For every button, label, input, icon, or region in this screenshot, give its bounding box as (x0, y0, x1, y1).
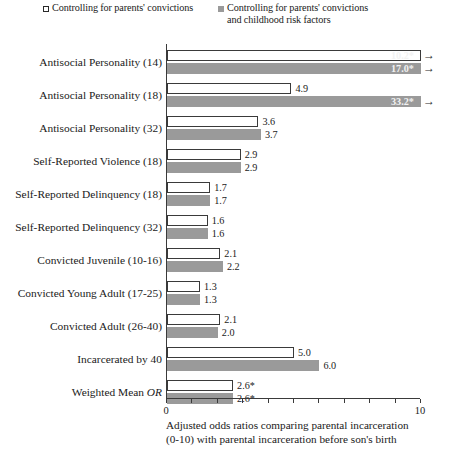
x-tick (242, 399, 243, 403)
bar-value-label: 4.9 (295, 82, 308, 95)
bar-value-label: 2.9 (245, 161, 258, 174)
open-square-icon (43, 6, 49, 12)
bar-filled[interactable] (167, 360, 319, 371)
bar-open[interactable] (167, 248, 220, 259)
bar-value-label: 2.0 (222, 326, 235, 339)
bar-value-label: 2.6* (237, 379, 255, 392)
bar-row-label: Self-Reported Delinquency (18) (0, 187, 162, 201)
bar-filled[interactable] (167, 129, 261, 140)
legend-entry-open: Controlling for parents' convictions (43, 2, 193, 14)
bar-row: Antisocial Personality (14)10.2*→17.0*→ (0, 48, 454, 81)
off-scale-arrow-icon: → (423, 95, 435, 108)
legend-label-1: Controlling for parents' convictions and… (227, 2, 368, 27)
bar-value-label: 5.0 (298, 346, 311, 359)
x-tick-label: 0 (163, 404, 168, 417)
x-tick (420, 399, 421, 403)
bar-value-label: 1.7 (214, 194, 227, 207)
bar-filled[interactable] (167, 228, 208, 239)
x-tick (166, 399, 167, 403)
bar-open[interactable] (167, 50, 421, 61)
bar-value-label: 2.1 (224, 247, 237, 260)
x-tick (395, 399, 396, 403)
bar-value-label: 33.2* (391, 95, 414, 108)
bar-value-label: 1.3 (204, 280, 217, 293)
bar-filled[interactable] (167, 162, 241, 173)
bar-row: Antisocial Personality (32)3.63.7 (0, 114, 454, 147)
bar-value-label: 1.3 (204, 293, 217, 306)
bar-value-label: 3.7 (265, 128, 278, 141)
bar-open[interactable] (167, 83, 291, 94)
bar-open[interactable] (167, 281, 200, 292)
chart-plot-area: Antisocial Personality (14)10.2*→17.0*→A… (0, 44, 454, 404)
bar-row-label: Antisocial Personality (14) (0, 55, 162, 69)
bar-open[interactable] (167, 347, 294, 358)
x-tick (268, 399, 269, 403)
bar-filled[interactable] (167, 96, 421, 107)
bar-value-label: 2.2 (227, 260, 240, 273)
bar-row-label: Self-Reported Violence (18) (0, 154, 162, 168)
bar-value-label: 2.1 (224, 313, 237, 326)
bar-filled[interactable] (167, 195, 210, 206)
x-tick (369, 399, 370, 403)
bar-row-label: Weighted Mean OR (0, 385, 162, 399)
value-axis: 010 (0, 398, 454, 418)
bar-row: Self-Reported Violence (18)2.92.9 (0, 147, 454, 180)
bar-open[interactable] (167, 215, 208, 226)
bar-open[interactable] (167, 380, 233, 391)
bar-row: Convicted Juvenile (10-16)2.12.2 (0, 246, 454, 279)
bar-open[interactable] (167, 116, 258, 127)
axis-caption: Adjusted odds ratios comparing parental … (166, 419, 454, 446)
bar-row-label: Convicted Adult (26-40) (0, 319, 162, 333)
bar-row-label: Antisocial Personality (18) (0, 88, 162, 102)
bar-row-label: Self-Reported Delinquency (32) (0, 220, 162, 234)
bar-filled[interactable] (167, 63, 421, 74)
bar-open[interactable] (167, 314, 220, 325)
legend-label-0: Controlling for parents' convictions (52, 2, 193, 14)
bar-row: Incarcerated by 405.06.0 (0, 345, 454, 378)
x-tick (344, 399, 345, 403)
bar-value-label: 1.6 (212, 214, 225, 227)
bar-row: Convicted Adult (26-40)2.12.0 (0, 312, 454, 345)
bar-value-label: 17.0* (391, 62, 414, 75)
bar-row-label: Antisocial Personality (32) (0, 121, 162, 135)
bar-filled[interactable] (167, 294, 200, 305)
x-tick-label: 10 (415, 404, 426, 417)
bar-row: Antisocial Personality (18)4.933.2*→ (0, 81, 454, 114)
x-tick (293, 399, 294, 403)
bar-value-label: 1.6 (212, 227, 225, 240)
x-tick (217, 399, 218, 403)
bar-row: Self-Reported Delinquency (32)1.61.6 (0, 213, 454, 246)
bar-row: Convicted Young Adult (17-25)1.31.3 (0, 279, 454, 312)
bar-value-label: 6.0 (323, 359, 336, 372)
bar-filled[interactable] (167, 261, 223, 272)
bar-row-label: Convicted Juvenile (10-16) (0, 253, 162, 267)
off-scale-arrow-icon: → (423, 62, 435, 75)
bar-row-label: Incarcerated by 40 (0, 352, 162, 366)
x-tick (191, 399, 192, 403)
bar-row: Self-Reported Delinquency (18)1.71.7 (0, 180, 454, 213)
bar-value-label: 10.2* (391, 49, 414, 62)
bar-open[interactable] (167, 149, 241, 160)
x-tick (318, 399, 319, 403)
bar-filled[interactable] (167, 327, 218, 338)
bar-value-label: 3.6 (262, 115, 275, 128)
chart-legend: Controlling for parents' convictions Con… (0, 0, 454, 40)
legend-entry-filled: Controlling for parents' convictions and… (218, 2, 368, 27)
bar-row-label: Convicted Young Adult (17-25) (0, 286, 162, 300)
bar-open[interactable] (167, 182, 210, 193)
bar-value-label: 2.9 (245, 148, 258, 161)
bar-value-label: 1.7 (214, 181, 227, 194)
filled-square-icon (218, 6, 224, 12)
